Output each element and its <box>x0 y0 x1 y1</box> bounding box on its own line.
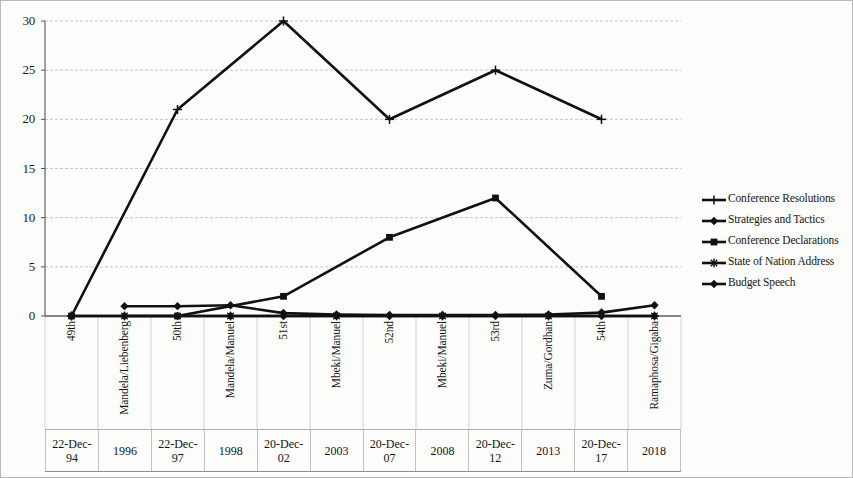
x-axis-category: 51st <box>257 319 310 427</box>
x-axis-category-label: Ramaphosa/Gigaba <box>649 321 661 409</box>
series-3 <box>68 195 605 320</box>
x-axis-category: 54th <box>575 319 628 427</box>
gridlines <box>45 21 681 316</box>
x-axis-category-label: 50th <box>172 321 184 341</box>
x-axis-date-cell: 2003 <box>311 430 364 471</box>
diamond-marker-icon <box>701 276 727 288</box>
x-axis-category-label: 54th <box>596 321 608 341</box>
chart-figure: 302520151050 49thMandela/Liebenberg50thM… <box>0 0 853 478</box>
y-tick-label: 15 <box>9 162 35 175</box>
x-axis-category: 53rd <box>469 319 522 427</box>
x-axis-category-label: 53rd <box>490 321 502 342</box>
x-axis-date-cell: 22-Dec-94 <box>45 430 99 471</box>
legend-item[interactable]: State of Nation Address <box>701 250 851 271</box>
legend-item-label: Budget Speech <box>728 276 795 288</box>
x-axis-category-labels: 49thMandela/Liebenberg50thMandela/Manuel… <box>45 319 681 429</box>
x-axis-date-cell: 20-Dec-02 <box>258 430 311 471</box>
legend-item[interactable]: Budget Speech <box>701 271 851 292</box>
y-tick-label: 10 <box>9 211 35 224</box>
x-axis-date-cell: 2018 <box>628 430 681 471</box>
legend-item[interactable]: Strategies and Tactics <box>701 208 851 229</box>
y-tick-label: 0 <box>9 309 35 322</box>
x-axis-date-cell: 22-Dec-97 <box>152 430 205 471</box>
x-axis-category-label: 51st <box>278 321 290 340</box>
legend-item[interactable]: Conference Resolutions <box>701 187 851 208</box>
y-tick-label: 25 <box>9 63 35 76</box>
y-tick-label: 20 <box>9 112 35 125</box>
legend-item-label: Strategies and Tactics <box>728 213 825 225</box>
y-tick-label: 30 <box>9 14 35 27</box>
diamond-marker-icon <box>701 213 727 225</box>
x-axis-category: Mbeki/Manuel <box>416 319 469 427</box>
y-tick-label: 5 <box>9 260 35 273</box>
x-axis-date-table: 22-Dec-94199622-Dec-97199820-Dec-0220032… <box>45 429 681 472</box>
x-axis-category: Mandela/Liebenberg <box>98 319 151 427</box>
legend-item-label: Conference Resolutions <box>728 192 835 204</box>
x-axis-date-cell: 1996 <box>99 430 152 471</box>
x-axis-date-cell: 20-Dec-17 <box>575 430 628 471</box>
x-axis-category-label: Mbeki/Manuel <box>331 321 343 388</box>
x-axis-date-cell: 2013 <box>522 430 575 471</box>
x-axis-date-cell: 20-Dec-12 <box>469 430 522 471</box>
legend-item-label: State of Nation Address <box>728 255 834 267</box>
legend-item[interactable]: Conference Declarations <box>701 229 851 250</box>
x-axis-category-label: 52nd <box>384 321 396 344</box>
x-axis-category: Mandela/Manuel <box>204 319 257 427</box>
x-axis-category: 49th <box>45 319 98 427</box>
x-axis-date-cell: 2008 <box>416 430 469 471</box>
square-marker-icon <box>701 234 727 246</box>
chart-legend: Conference ResolutionsStrategies and Tac… <box>701 187 851 292</box>
y-axis: 302520151050 <box>1 1 35 478</box>
x-axis-category: Mbeki/Manuel <box>310 319 363 427</box>
x-axis-category: 52nd <box>363 319 416 427</box>
x-axis-category-label: Mbeki/Manuel <box>437 321 449 388</box>
x-axis-category: Zuma/Gordhan <box>522 319 575 427</box>
x-axis-category-label: Mandela/Liebenberg <box>119 321 131 415</box>
x-axis-category-label: 49th <box>66 321 78 341</box>
star-marker-icon <box>701 255 727 267</box>
x-axis-date-cell: 1998 <box>205 430 258 471</box>
x-axis-category-label: Mandela/Manuel <box>225 321 237 398</box>
x-axis-date-cell: 20-Dec-07 <box>364 430 417 471</box>
plus-marker-icon <box>701 192 727 204</box>
x-axis-category: 50th <box>151 319 204 427</box>
x-axis-category: Ramaphosa/Gigaba <box>628 319 681 427</box>
legend-item-label: Conference Declarations <box>728 234 839 246</box>
x-axis-category-label: Zuma/Gordhan <box>543 321 555 390</box>
